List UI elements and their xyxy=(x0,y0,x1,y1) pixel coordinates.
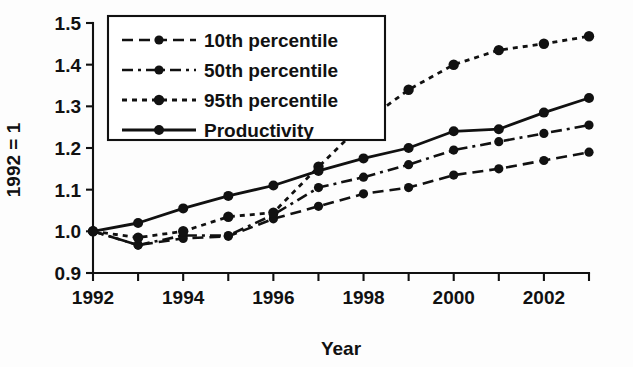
data-point xyxy=(359,173,368,182)
data-point xyxy=(494,137,503,146)
x-tick-label: 2000 xyxy=(433,287,475,308)
series-line xyxy=(93,152,589,245)
data-point xyxy=(584,121,593,130)
legend-marker-sample xyxy=(154,65,163,74)
data-point xyxy=(268,181,278,191)
x-axis-tick-labels: 199219941996199820002002 xyxy=(72,287,565,308)
data-point xyxy=(584,31,594,41)
data-point xyxy=(494,164,503,173)
y-tick-label: 1.0 xyxy=(55,221,81,242)
y-axis-tick-labels: 0.91.01.11.21.31.41.5 xyxy=(55,13,82,284)
y-tick-label: 1.4 xyxy=(55,55,82,76)
line-chart: 0.91.01.11.21.31.41.5 199219941996199820… xyxy=(0,0,633,367)
data-point xyxy=(494,45,504,55)
data-point xyxy=(539,129,548,138)
data-point xyxy=(404,143,414,153)
data-point xyxy=(449,126,459,136)
x-tick-label: 1998 xyxy=(342,287,384,308)
y-tick-label: 0.9 xyxy=(55,263,81,284)
legend-marker-sample xyxy=(154,125,164,135)
x-tick-label: 1992 xyxy=(72,287,114,308)
data-point xyxy=(133,232,143,242)
data-point xyxy=(88,226,98,236)
data-point xyxy=(133,218,143,228)
legend-label: 10th percentile xyxy=(204,30,338,51)
y-tick-label: 1.5 xyxy=(55,13,82,34)
data-point xyxy=(449,59,459,69)
data-point xyxy=(449,146,458,155)
data-point xyxy=(224,231,233,240)
data-point xyxy=(404,160,413,169)
y-axis-title: 1992 = 1 xyxy=(3,122,24,197)
chart-figure: 0.91.01.11.21.31.41.5 199219941996199820… xyxy=(0,0,633,367)
data-point xyxy=(359,153,369,163)
x-tick-label: 1996 xyxy=(252,287,294,308)
data-point xyxy=(494,124,504,134)
legend-label: 50th percentile xyxy=(204,60,338,81)
data-point xyxy=(584,148,593,157)
legend-marker-sample xyxy=(154,95,164,105)
data-point xyxy=(314,183,323,192)
data-point xyxy=(223,212,233,222)
data-point xyxy=(403,85,413,95)
data-point xyxy=(314,202,323,211)
x-axis-ticks xyxy=(93,273,589,281)
chart-legend: 10th percentile50th percentile95th perce… xyxy=(108,16,385,141)
data-point xyxy=(223,191,233,201)
data-point xyxy=(268,207,278,217)
data-point xyxy=(178,203,188,213)
data-point xyxy=(584,93,594,103)
y-tick-label: 1.3 xyxy=(55,96,81,117)
legend-marker-sample xyxy=(154,35,163,44)
x-tick-label: 2002 xyxy=(523,287,565,308)
x-tick-label: 1994 xyxy=(162,287,205,308)
data-point xyxy=(314,166,324,176)
legend-label: 95th percentile xyxy=(204,90,338,111)
y-tick-label: 1.2 xyxy=(55,138,81,159)
legend-label: Productivity xyxy=(204,120,314,141)
data-point xyxy=(539,108,549,118)
data-point xyxy=(178,226,188,236)
data-point xyxy=(449,171,458,180)
data-point xyxy=(359,189,368,198)
data-point xyxy=(404,183,413,192)
data-point xyxy=(539,156,548,165)
data-point xyxy=(539,39,549,49)
x-axis-title: Year xyxy=(321,338,362,359)
y-tick-label: 1.1 xyxy=(55,180,82,201)
